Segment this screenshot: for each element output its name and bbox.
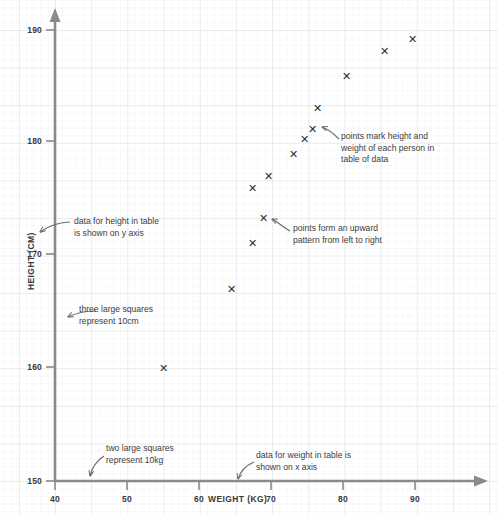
annotation-line: two large squares [106,443,174,455]
annotation-line: shown on x axis [256,462,351,474]
annotation-line: weight of each person in [341,143,434,155]
scatter-plot-figure: 190 180 170 160 150 40 50 60 70 80 90 HE… [0,0,498,514]
annotation-arrows-layer [0,0,498,514]
annotation-height-y-axis: data for height in table is shown on y a… [74,216,159,239]
annotation-line: points mark height and [341,131,434,143]
annotation-line: data for height in table [74,216,159,228]
annotation-line: pattern from left to right [293,235,382,247]
annotation-line: represent 10cm [79,316,153,328]
annotation-weight-x-axis: data for weight in table is shown on x a… [256,450,351,473]
arrow-two-large-squares [90,456,104,476]
arrow-height-y-axis [40,222,70,232]
arrow-weight-x-axis [238,462,254,479]
arrow-points-mark [322,127,339,139]
annotation-three-large-squares: three large squares represent 10cm [79,304,153,327]
annotation-two-large-squares: two large squares represent 10kg [106,443,174,466]
annotation-line: three large squares [79,304,153,316]
annotation-line: is shown on y axis [74,228,159,240]
annotation-line: points form an upward [293,223,382,235]
annotation-points-mark: points mark height and weight of each pe… [341,131,434,166]
arrow-upward-pattern [272,219,290,231]
annotation-line: table of data [341,154,434,166]
annotation-line: data for weight in table is [256,450,351,462]
annotation-line: represent 10kg [106,455,174,467]
annotation-upward-pattern: points form an upward pattern from left … [293,223,382,246]
